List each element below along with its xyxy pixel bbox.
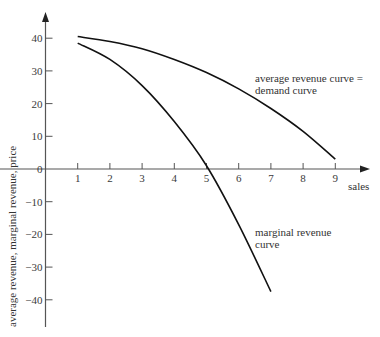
x-axis-title: sales bbox=[348, 180, 369, 192]
y-axis-title: average revenue, marginal revenue, price bbox=[6, 146, 18, 327]
x-tick-label: 6 bbox=[236, 172, 242, 184]
y-tick-label: 10 bbox=[32, 130, 44, 142]
x-tick-label: 5 bbox=[204, 172, 210, 184]
mr-curve-label-line1: marginal revenue bbox=[255, 226, 332, 238]
y-tick-label: 20 bbox=[32, 98, 44, 110]
x-tick-label: 8 bbox=[300, 172, 306, 184]
revenue-chart: 123456789403020100−10−20−30−40 sales ave… bbox=[0, 0, 380, 337]
x-tick-label: 1 bbox=[75, 172, 81, 184]
x-tick-label: 9 bbox=[333, 172, 339, 184]
x-tick-label: 7 bbox=[268, 172, 274, 184]
y-tick-label: −20 bbox=[25, 228, 43, 240]
y-tick-label: 0 bbox=[37, 163, 43, 175]
mr-curve-label-line2: curve bbox=[255, 238, 280, 250]
x-tick-label: 4 bbox=[172, 172, 178, 184]
y-axis-arrow-icon bbox=[42, 12, 49, 22]
x-axis-arrow-icon bbox=[360, 166, 370, 173]
y-tick-label: −30 bbox=[25, 261, 43, 273]
x-tick-label: 3 bbox=[139, 172, 145, 184]
ar-curve-label-line1: average revenue curve = bbox=[255, 72, 363, 84]
y-tick-label: −10 bbox=[25, 196, 43, 208]
x-tick-label: 2 bbox=[107, 172, 113, 184]
axes bbox=[0, 12, 370, 327]
y-tick-label: −40 bbox=[25, 294, 43, 306]
ar-curve-label-line2: demand curve bbox=[255, 84, 317, 96]
average-revenue-curve bbox=[78, 37, 336, 160]
y-tick-label: 30 bbox=[32, 65, 44, 77]
y-tick-label: 40 bbox=[32, 32, 44, 44]
